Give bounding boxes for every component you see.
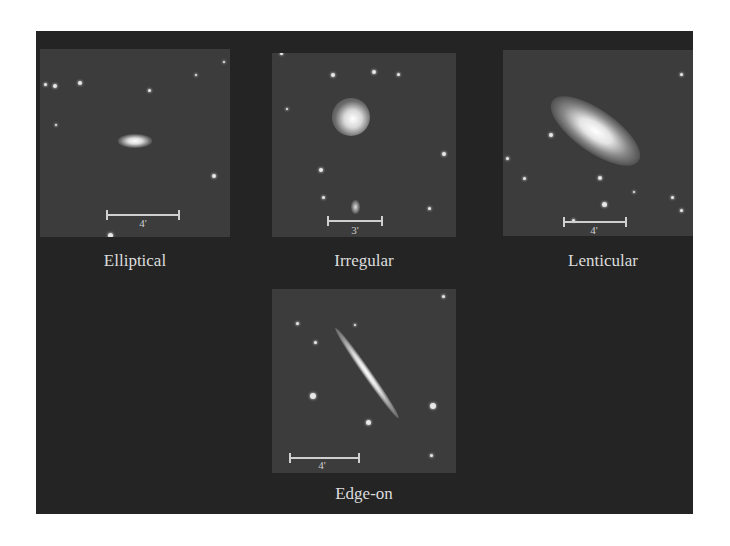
star [397,73,400,76]
star [148,89,151,92]
irregular-galaxy-image: 3' [272,53,456,237]
star [212,174,216,178]
scale-bar [106,214,180,216]
lenticular-galaxy-image: 4' [503,50,693,236]
star [44,83,47,86]
scale-label: 4' [579,224,609,236]
star [314,341,317,344]
star [319,168,323,172]
edge-on-galaxy-image: 4' [272,289,456,473]
caption-irregular: Irregular [264,251,464,271]
caption-edge-on: Edge-on [264,484,464,504]
star [523,177,526,180]
companion-galaxy [351,200,360,214]
star [633,191,635,193]
star [430,454,433,457]
star [442,152,446,156]
star [428,207,431,210]
star [671,196,674,199]
star [78,81,82,85]
scale-label: 3' [340,224,370,236]
star [602,202,607,207]
elliptical-galaxy-image: 4' [40,49,230,237]
star [322,196,325,199]
star [296,322,299,325]
star [55,124,57,126]
star [680,73,683,76]
star [680,209,683,212]
star [442,295,445,298]
star [108,233,113,237]
caption-lenticular: Lenticular [503,251,703,271]
scale-label: 4' [307,459,337,471]
lenticular-galaxy [540,84,650,179]
star [53,84,57,88]
star [286,108,288,110]
star [549,133,553,137]
star [506,157,509,160]
star [354,324,356,326]
star [223,61,225,63]
star [310,393,316,399]
irregular-galaxy [332,98,370,136]
star [366,420,371,425]
star [430,403,436,409]
star [331,73,335,77]
star [598,176,602,180]
star [195,74,197,76]
star [280,53,283,55]
scale-bar [327,220,383,222]
scale-bar [563,221,627,223]
scale-label: 4' [128,217,158,229]
star [372,70,376,74]
caption-elliptical: Elliptical [35,251,235,271]
elliptical-galaxy [118,134,152,148]
edge-on-galaxy [332,326,402,421]
